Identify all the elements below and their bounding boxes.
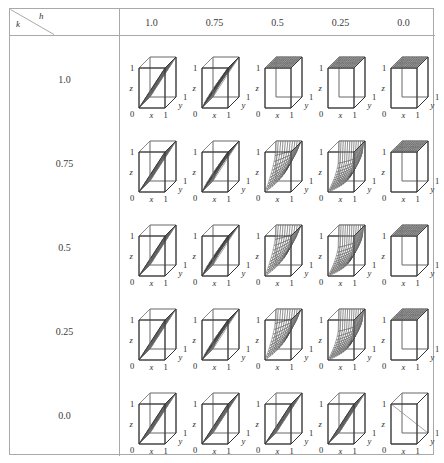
svg-text:0: 0 [382,109,386,119]
svg-text:1: 1 [130,399,134,409]
surface-mesh [202,393,239,444]
svg-text:x: x [338,446,343,456]
svg-text:1: 1 [416,194,420,204]
svg-text:z: z [381,419,386,429]
svg-text:0: 0 [382,193,386,203]
svg-text:1: 1 [130,231,134,241]
svg-text:y: y [241,100,246,110]
axis-labels: 1z0x11y [129,399,188,456]
column-header-h-0-25: 0.25 [309,14,372,32]
axis-labels: 1z0x11y [129,231,188,288]
svg-text:1: 1 [435,92,439,102]
plot-cell-k-0-h-0-5: 1z0x11y [248,375,311,459]
svg-text:z: z [381,251,386,261]
plot-cell-k-0-5-h-0-5: 1z0x11y [248,207,311,291]
svg-text:x: x [212,110,217,120]
svg-text:1: 1 [227,446,231,456]
svg-text:1: 1 [193,147,197,157]
svg-text:0: 0 [319,109,323,119]
row-header-k-0-75: 0.75 [10,157,119,171]
svg-text:z: z [381,83,386,93]
svg-text:1: 1 [382,315,386,325]
svg-text:y: y [241,268,246,278]
svg-text:1: 1 [227,194,231,204]
svg-text:x: x [149,446,154,456]
svg-text:0: 0 [193,361,197,371]
svg-text:1: 1 [435,344,439,354]
axis-labels: 1z0x11y [381,63,440,120]
svg-text:y: y [178,436,183,446]
svg-text:0: 0 [193,277,197,287]
svg-text:0: 0 [130,109,134,119]
svg-text:y: y [304,268,309,278]
svg-text:1: 1 [353,194,357,204]
svg-text:y: y [178,352,183,362]
svg-text:1: 1 [353,446,357,456]
svg-text:x: x [149,278,154,288]
plot-cell-k-0-25-h-1: 1z0x11y [122,291,185,375]
svg-text:x: x [338,278,343,288]
svg-text:x: x [401,194,406,204]
svg-text:y: y [367,268,372,278]
plot-cell-k-1-h-0: 1z0x11y [374,39,437,123]
svg-text:1: 1 [435,428,439,438]
column-header-h-0-75: 0.75 [183,14,246,32]
svg-text:z: z [192,167,197,177]
svg-text:1: 1 [382,147,386,157]
svg-text:z: z [255,167,260,177]
svg-text:y: y [430,352,435,362]
surface-mesh [139,141,176,192]
corner-column-variable-label: h [39,11,44,21]
svg-text:z: z [318,251,323,261]
svg-text:1: 1 [319,63,323,73]
axis-labels: 1z0x11y [192,147,251,204]
svg-text:z: z [129,83,134,93]
svg-text:1: 1 [290,110,294,120]
plot-cell-k-0-75-h-0-5: 1z0x11y [248,123,311,207]
axis-labels: 1z0x11y [381,399,440,456]
svg-text:1: 1 [193,315,197,325]
svg-text:1: 1 [290,446,294,456]
axis-labels: 1z0x11y [255,63,314,120]
surface-mesh [202,57,239,108]
plot-cell-k-0-75-h-0-75: 1z0x11y [185,123,248,207]
plot-cell-k-0-75-h-0: 1z0x11y [374,123,437,207]
surface-mesh [139,225,176,276]
svg-text:y: y [430,100,435,110]
svg-text:1: 1 [227,278,231,288]
svg-text:y: y [430,436,435,446]
svg-text:y: y [367,352,372,362]
axis-labels: 1z0x11y [255,399,314,456]
axis-labels: 1z0x11y [381,315,440,372]
svg-text:y: y [430,268,435,278]
svg-text:z: z [192,251,197,261]
plot-cell-k-0-25-h-0-5: 1z0x11y [248,291,311,375]
axis-labels: 1z0x11y [192,315,251,372]
row-label-column-divider [119,9,120,456]
svg-text:1: 1 [416,446,420,456]
svg-text:x: x [338,110,343,120]
column-header-h-1-0: 1.0 [120,14,183,32]
plot-cell-k-0-25-h-0: 1z0x11y [374,291,437,375]
svg-text:0: 0 [256,445,260,455]
svg-text:0: 0 [256,109,260,119]
plot-cell-k-0-h-0-75: 1z0x11y [185,375,248,459]
row-header-k-1-0: 1.0 [10,73,119,87]
svg-text:y: y [367,184,372,194]
surface-mesh [202,225,239,276]
svg-text:1: 1 [353,110,357,120]
svg-text:0: 0 [319,193,323,203]
svg-text:z: z [192,335,197,345]
svg-text:z: z [318,167,323,177]
svg-text:1: 1 [382,231,386,241]
surface-mesh [265,225,302,276]
svg-text:1: 1 [382,63,386,73]
svg-text:y: y [241,352,246,362]
svg-text:x: x [401,446,406,456]
svg-text:y: y [367,436,372,446]
svg-text:z: z [255,83,260,93]
svg-text:y: y [178,268,183,278]
svg-text:y: y [304,100,309,110]
plot-cell-k-0-25-h-0-75: 1z0x11y [185,291,248,375]
svg-text:x: x [338,362,343,372]
